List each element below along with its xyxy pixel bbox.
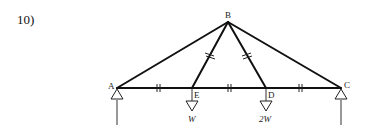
- load-arrow-down-icon: [260, 101, 272, 111]
- load-label-2W: 2W: [259, 114, 273, 124]
- support-A: [111, 89, 123, 125]
- truss-members: [117, 22, 341, 88]
- pin-support-triangle-icon: [335, 89, 347, 99]
- node-label-A: A: [108, 81, 115, 91]
- node-label-B: B: [225, 10, 231, 20]
- truss-diagram: A B C D E W 2W: [0, 0, 371, 132]
- equal-length-marks: [157, 53, 302, 92]
- load-arrow-down-icon: [186, 101, 198, 111]
- node-label-E: E: [194, 90, 200, 100]
- node-label-C: C: [344, 80, 350, 90]
- member-BD: [228, 22, 266, 88]
- node-label-D: D: [268, 90, 275, 100]
- support-C: [335, 89, 347, 125]
- load-label-W: W: [188, 114, 197, 124]
